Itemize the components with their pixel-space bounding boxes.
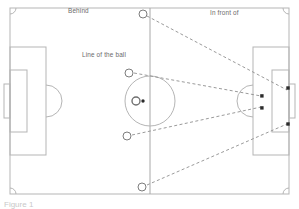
- defender-lower-arc: [260, 106, 263, 109]
- label-in-front-of: In front of: [210, 9, 239, 16]
- left-goal-area: [10, 70, 27, 132]
- figure-caption: Figure 1: [4, 200, 124, 209]
- corner-arc-top-left: [10, 8, 16, 14]
- left-penalty-area: [10, 47, 46, 155]
- left-goal: [4, 84, 10, 118]
- corner-arc-bottom-right: [283, 188, 289, 194]
- label-line-of-the-ball: Line of the ball: [82, 51, 126, 58]
- corner-arc-top-right: [283, 8, 289, 14]
- attacker-top-halfway: [139, 10, 147, 18]
- left-penalty-arc: [46, 85, 62, 117]
- label-behind: Behind: [68, 7, 89, 14]
- sightline-from-lower-left: [132, 107, 261, 135]
- defender-upper-arc: [260, 94, 263, 97]
- pitch-graphic: [0, 0, 299, 209]
- ball: [141, 99, 144, 102]
- right-penalty-area: [253, 47, 289, 155]
- attacker-bottom-halfway: [138, 183, 146, 191]
- player-at-ball: [132, 97, 140, 105]
- corner-arc-bottom-left: [10, 188, 16, 194]
- offside-diagram: Behind In front of Line of the ball Figu…: [0, 0, 299, 209]
- right-goal: [289, 84, 295, 118]
- defender-goalbox-lower: [286, 122, 289, 125]
- right-penalty-arc: [237, 85, 253, 117]
- attacker-lower-left: [123, 132, 131, 140]
- defender-goalbox-upper: [286, 86, 289, 89]
- attacker-upper-left: [125, 69, 133, 77]
